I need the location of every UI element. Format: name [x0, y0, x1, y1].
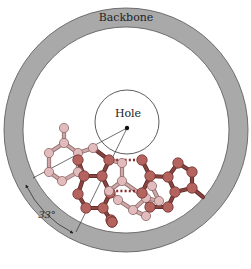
atom-dark — [81, 203, 91, 213]
atom-light — [44, 167, 53, 176]
bonds — [49, 128, 203, 222]
atom-dark — [187, 167, 197, 177]
atom-dark — [97, 171, 107, 181]
atom-dark — [145, 202, 155, 212]
molecule — [44, 123, 203, 227]
atom-light — [59, 138, 68, 147]
hole-label: Hole — [115, 107, 141, 120]
atom-light — [59, 123, 68, 132]
atom-dark — [107, 217, 117, 227]
atom-light — [44, 148, 53, 157]
hole-center-dot — [125, 126, 129, 130]
atom-light — [104, 186, 113, 195]
atom-dark — [170, 187, 180, 197]
atom-light — [154, 196, 163, 205]
atom-light — [117, 158, 126, 167]
atom-dark — [98, 203, 108, 213]
atom-dark — [163, 172, 173, 182]
backbone-hole-diagram: Backbone Hole 33° — [0, 0, 251, 269]
backbone-label: Backbone — [99, 11, 154, 24]
atom-light — [141, 211, 150, 220]
atom-light — [88, 143, 97, 152]
atom-dark — [163, 202, 173, 212]
hole-boundary — [95, 90, 159, 154]
atom-dark — [73, 155, 83, 165]
atom-dark — [79, 171, 89, 181]
atom-dark — [173, 158, 183, 168]
atom-dark — [73, 189, 83, 199]
atom-light — [147, 181, 156, 190]
atom-dark — [137, 188, 147, 198]
hole-circle — [95, 90, 159, 154]
atom-light — [57, 176, 66, 185]
atom-light — [113, 195, 122, 204]
atom-dark — [145, 171, 155, 181]
atom-light — [117, 176, 126, 185]
atom-dark — [187, 183, 197, 193]
atom-dark — [104, 155, 114, 165]
atom-dark — [137, 155, 147, 165]
angle-label: 33° — [38, 209, 56, 220]
atom-light — [128, 205, 137, 214]
